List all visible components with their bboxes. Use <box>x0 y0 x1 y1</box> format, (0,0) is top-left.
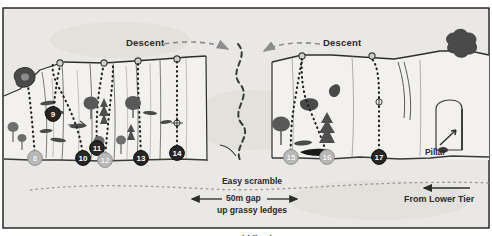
climbing-topo-diagram: Descent Descent Easy scramble up grassy … <box>0 0 492 236</box>
topo-illustration <box>0 0 492 236</box>
summit-boulder-left <box>14 67 35 87</box>
pillar-feature <box>436 100 462 153</box>
